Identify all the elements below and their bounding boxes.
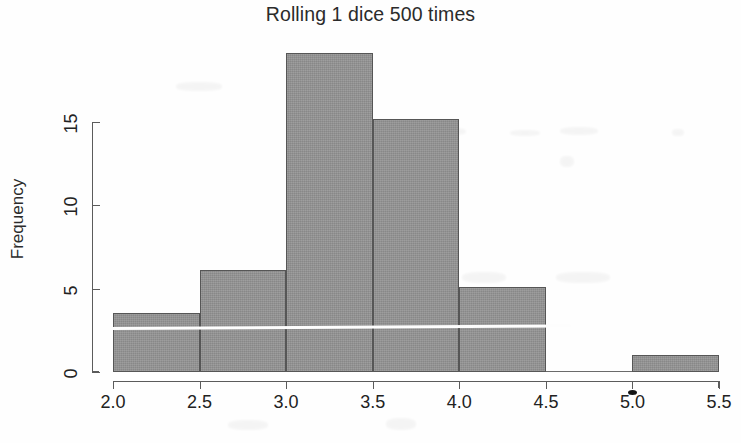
x-tick-label-2.0: 2.0 [83, 392, 143, 413]
histogram-bar-4.0-4.5[interactable] [459, 287, 546, 372]
y-axis-title: Frequency [8, 159, 28, 279]
histogram-bar-3.0-3.5[interactable] [286, 53, 373, 372]
scan-bleed-artifact [228, 420, 268, 430]
x-tick-2.5 [200, 381, 201, 389]
x-tick-3.0 [286, 381, 287, 389]
x-tick-label-5.0: 5.0 [602, 392, 662, 413]
x-tick-label-5.5: 5.5 [689, 392, 741, 413]
y-tick-label-0: 0 [61, 359, 82, 389]
histogram-bar-4.5-5.0[interactable] [546, 371, 633, 372]
x-tick-2.0 [113, 381, 114, 389]
x-tick-label-3.5: 3.5 [343, 392, 403, 413]
histogram-bar-2.5-3.0[interactable] [200, 270, 287, 372]
y-tick-label-5: 5 [61, 276, 82, 306]
y-tick-5 [92, 289, 100, 290]
y-tick-0 [92, 372, 100, 373]
y-tick-label-15: 15 [61, 109, 82, 139]
x-tick-4.5 [546, 381, 547, 389]
histogram-figure: Rolling 1 dice 500 times Frequency 15 10… [0, 0, 741, 443]
x-tick-4.0 [459, 381, 460, 389]
chart-title: Rolling 1 dice 500 times [0, 3, 741, 26]
x-tick-5.0 [632, 381, 633, 389]
plot-area [113, 40, 719, 372]
y-axis-line [92, 122, 93, 372]
x-tick-5.5 [719, 381, 720, 389]
x-tick-3.5 [373, 381, 374, 389]
y-tick-15 [92, 122, 100, 123]
histogram-bar-2.0-2.5[interactable] [113, 313, 200, 372]
histogram-bar-5.0-5.5[interactable] [632, 355, 719, 372]
histogram-bar-3.5-4.0[interactable] [373, 119, 460, 372]
x-tick-label-4.0: 4.0 [429, 392, 489, 413]
y-tick-label-10: 10 [61, 192, 82, 222]
y-tick-10 [92, 205, 100, 206]
scan-bleed-artifact [386, 418, 416, 430]
ink-dot-artifact [628, 390, 637, 395]
x-tick-label-3.0: 3.0 [256, 392, 316, 413]
x-tick-label-4.5: 4.5 [516, 392, 576, 413]
x-tick-label-2.5: 2.5 [170, 392, 230, 413]
x-axis-line [113, 381, 719, 382]
